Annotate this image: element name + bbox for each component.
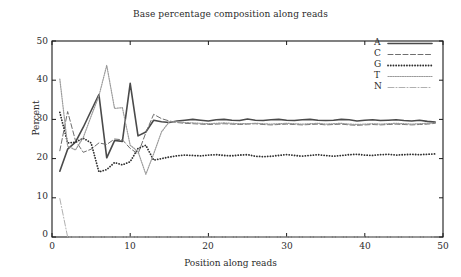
series-line-c bbox=[60, 112, 435, 154]
axis-frame bbox=[52, 41, 443, 237]
series-line-a bbox=[60, 83, 435, 171]
data-series-group bbox=[60, 65, 435, 237]
axis-tick-marks bbox=[52, 41, 443, 237]
chart-figure: Base percentage composition along reads … bbox=[0, 0, 461, 277]
legend-key-group bbox=[388, 44, 432, 88]
series-line-g bbox=[60, 112, 435, 172]
plot-area bbox=[0, 0, 461, 277]
series-line-n bbox=[60, 199, 435, 237]
